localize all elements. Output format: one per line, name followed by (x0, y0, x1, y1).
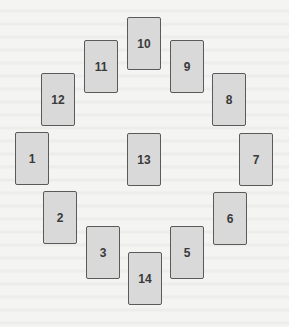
card-label: 14 (138, 272, 151, 286)
card-12: 12 (41, 73, 75, 126)
card-8: 8 (212, 73, 246, 126)
card-7: 7 (239, 133, 273, 186)
card-label: 7 (253, 153, 260, 167)
card-label: 2 (57, 211, 64, 225)
card-5: 5 (170, 226, 204, 279)
card-3: 3 (86, 226, 120, 279)
card-label: 5 (184, 246, 191, 260)
card-label: 9 (184, 60, 191, 74)
card-10: 10 (127, 17, 161, 70)
card-label: 11 (95, 60, 108, 74)
card-label: 10 (137, 37, 150, 51)
card-label: 12 (51, 93, 64, 107)
card-label: 8 (226, 93, 233, 107)
card-2: 2 (43, 191, 77, 244)
card-6: 6 (213, 192, 247, 245)
card-14: 14 (128, 252, 162, 305)
card-11: 11 (84, 40, 118, 93)
card-label: 13 (137, 153, 150, 167)
card-1: 1 (15, 132, 49, 185)
card-9: 9 (170, 40, 204, 93)
card-label: 6 (227, 212, 234, 226)
card-label: 1 (29, 152, 36, 166)
card-label: 3 (100, 246, 107, 260)
card-13: 13 (127, 133, 161, 186)
